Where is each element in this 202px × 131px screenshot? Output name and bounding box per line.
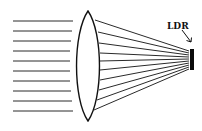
ldr-sensor	[190, 49, 194, 70]
incident-parallel-rays	[13, 21, 73, 111]
ldr-label: LDR	[167, 21, 189, 31]
refracted-ray	[100, 59, 189, 61]
lens-ray-diagram: LDR	[0, 0, 202, 131]
ldr-pointer-arrow-icon	[182, 30, 192, 42]
convex-lens	[77, 11, 100, 121]
refracted-ray	[94, 69, 189, 110]
converging-rays	[94, 20, 189, 110]
refracted-ray	[98, 32, 189, 53]
